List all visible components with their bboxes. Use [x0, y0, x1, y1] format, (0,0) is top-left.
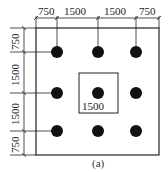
pile-dot [92, 87, 104, 99]
pile-dot [51, 125, 63, 137]
pile-dot [130, 125, 142, 137]
top-dim-label-3: 1500 [104, 5, 127, 17]
inner-square-label: 1500 [82, 100, 105, 112]
pile-grid [51, 46, 142, 137]
pile-dot [92, 46, 104, 58]
diagram-canvas: 750 1500 1500 750 750 1500 1500 750 1500 [0, 0, 168, 172]
left-dim-label-4: 750 [9, 136, 21, 153]
left-dim-label-1: 750 [9, 33, 21, 50]
left-dim-label-2: 1500 [9, 64, 21, 87]
top-dim-label-2: 1500 [64, 5, 87, 17]
left-dim-label-3: 1500 [9, 103, 21, 126]
pile-dot [92, 125, 104, 137]
pile-dot [130, 46, 142, 58]
pile-layout-diagram: 750 1500 1500 750 750 1500 1500 750 1500 [0, 0, 168, 172]
pile-dot [51, 87, 63, 99]
top-dim-label-4: 750 [139, 5, 156, 17]
pile-dot [130, 87, 142, 99]
pile-dot [51, 46, 63, 58]
figure-caption: (a) [92, 157, 105, 170]
top-dim-label-1: 750 [38, 5, 55, 17]
